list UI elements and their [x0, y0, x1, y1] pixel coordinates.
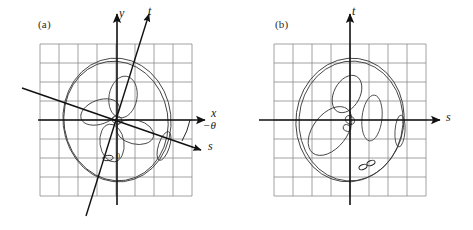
angle-arc-a — [182, 120, 190, 141]
panel-b-canvas — [237, 0, 473, 230]
zero-marker-label: 0 — [116, 152, 120, 161]
axis-label-y: y — [119, 6, 124, 21]
axis-s-a — [22, 88, 201, 150]
figure-root: (a) y t x −θ s 0 — [0, 0, 473, 230]
panel-a: (a) y t x −θ s 0 — [0, 0, 237, 230]
axis-label-t: t — [148, 4, 151, 19]
panel-b: (b) t s — [237, 0, 473, 230]
panel-b-tag: (b) — [275, 18, 288, 30]
panel-a-canvas — [0, 0, 237, 230]
axis-label-s-b: s — [446, 110, 451, 125]
zero-marker-b — [358, 159, 376, 171]
angle-label-negative-theta: −θ — [203, 119, 216, 131]
axis-label-t-b: t — [352, 4, 355, 19]
panel-a-tag: (a) — [38, 18, 51, 30]
axis-label-s: s — [208, 139, 213, 154]
